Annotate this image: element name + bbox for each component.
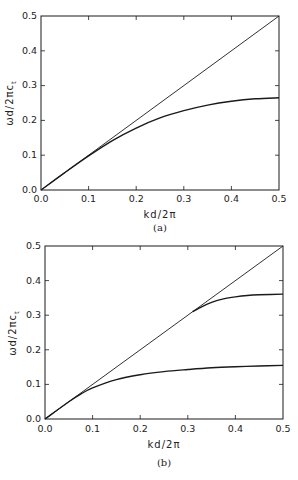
y-axis-label-subscript: t [13,310,21,314]
x-tick-label: 0.4 [224,193,239,204]
series-line-dispersion-branch [41,98,279,190]
x-tick-label: 0.2 [133,423,148,434]
y-tick-label: 0.4 [26,275,41,286]
x-tick-label: 0.1 [81,193,96,204]
figure: 0.0 0.1 0.2 0.3 0.4 0.5 0.0 0.1 0.2 0.3 … [0,0,298,480]
caption-b: (b) [157,457,171,468]
y-axis-label-b: ωd/2πct [7,310,21,356]
series-a [41,16,279,190]
y-tick-label: 0.5 [26,240,41,251]
series-line-lower-branch [45,365,283,419]
y-tick-label: 0.2 [22,114,37,125]
y-axis-label-main: ωd/2πc [7,314,18,356]
y-axis-label-a: ωd/2πct [4,80,18,126]
y-tick-label: 0.5 [22,10,37,21]
series-b [45,246,283,419]
x-tick-label: 0.3 [180,423,195,434]
y-tick-label: 0.1 [26,378,41,389]
caption-a: (a) [153,222,167,233]
x-axis-label-a: kd/2π [144,209,177,220]
chart-panel-b: 0.0 0.1 0.2 0.3 0.4 0.5 0.0 0.1 0.2 0.3 … [7,240,291,468]
x-tick-label: 0.0 [37,423,52,434]
y-tick-label: 0.2 [26,344,41,355]
x-tick-labels-b: 0.0 0.1 0.2 0.3 0.4 0.5 [37,423,290,434]
x-tick-label: 0.5 [275,423,290,434]
x-tick-label: 0.0 [33,193,48,204]
y-tick-label: 0.4 [22,45,37,56]
y-tick-label: 0.1 [22,149,37,160]
y-axis-label-subscript: t [10,80,18,84]
x-tick-label: 0.2 [129,193,144,204]
y-tick-labels-b: 0.0 0.1 0.2 0.3 0.4 0.5 [26,240,41,424]
x-tick-label: 0.3 [176,193,191,204]
y-tick-label: 0.3 [22,79,37,90]
y-tick-label: 0.3 [26,309,41,320]
x-axis-label-b: kd/2π [148,439,181,450]
y-axis-label-main: ωd/2πc [4,84,15,126]
x-tick-label: 0.4 [228,423,243,434]
chart-panel-a: 0.0 0.1 0.2 0.3 0.4 0.5 0.0 0.1 0.2 0.3 … [4,10,287,233]
x-tick-labels-a: 0.0 0.1 0.2 0.3 0.4 0.5 [33,193,286,204]
x-tick-label: 0.5 [271,193,286,204]
series-line-light-line [45,246,283,419]
series-line-upper-branch [193,294,283,312]
y-tick-labels-a: 0.0 0.1 0.2 0.3 0.4 0.5 [22,10,37,195]
x-tick-label: 0.1 [85,423,100,434]
